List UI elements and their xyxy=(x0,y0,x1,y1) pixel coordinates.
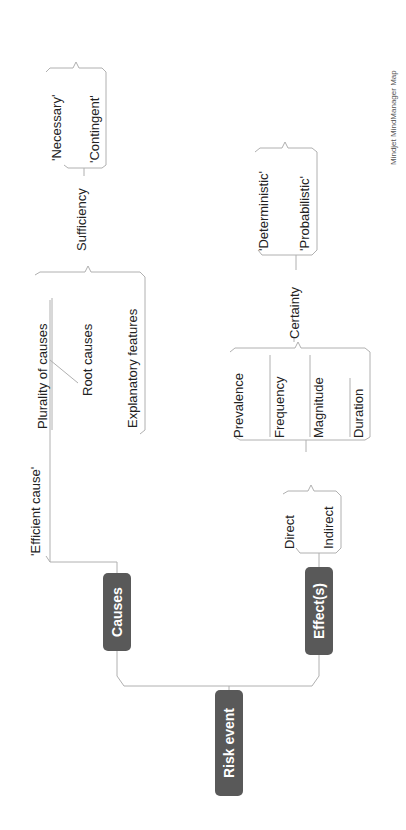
subtopic-magnitude[interactable]: Magnitude xyxy=(312,377,325,438)
subtopic-direct[interactable]: Direct xyxy=(283,515,296,549)
mind-map-canvas: Risk event Causes Effect(s) 'Efficient c… xyxy=(0,0,406,830)
subtopic-duration[interactable]: Duration xyxy=(352,389,365,438)
subtopic-plurality-of-causes[interactable]: Plurality of causes xyxy=(36,324,49,430)
central-topic-risk-event[interactable]: Risk event xyxy=(215,690,243,796)
subtopic-probabilistic[interactable]: 'Probabilistic' xyxy=(298,176,311,251)
subtopic-indirect[interactable]: Indirect xyxy=(322,506,335,549)
effects-label: Effect(s) xyxy=(312,583,326,639)
subtopic-efficient-cause[interactable]: 'Efficient cause' xyxy=(29,467,42,556)
watermark-text: Mindjet MindManager Map xyxy=(390,70,398,165)
subtopic-deterministic[interactable]: 'Deterministic' xyxy=(257,171,270,251)
subtopic-root-causes[interactable]: Root causes xyxy=(81,324,94,396)
subtopic-certainty[interactable]: Certainty xyxy=(288,287,301,339)
subtopic-necessary[interactable]: 'Necessary' xyxy=(50,95,63,161)
central-topic-label: Risk event xyxy=(222,708,236,778)
main-topic-effects[interactable]: Effect(s) xyxy=(305,567,333,655)
subtopic-frequency[interactable]: Frequency xyxy=(273,377,286,438)
main-topic-causes[interactable]: Causes xyxy=(103,573,131,651)
subtopic-sufficiency[interactable]: Sufficiency xyxy=(75,188,88,251)
subtopic-prevalence[interactable]: Prevalence xyxy=(232,373,245,438)
subtopic-contingent[interactable]: 'Contingent' xyxy=(88,95,101,163)
causes-label: Causes xyxy=(110,587,124,637)
subtopic-explanatory-features[interactable]: Explanatory features xyxy=(126,309,139,428)
